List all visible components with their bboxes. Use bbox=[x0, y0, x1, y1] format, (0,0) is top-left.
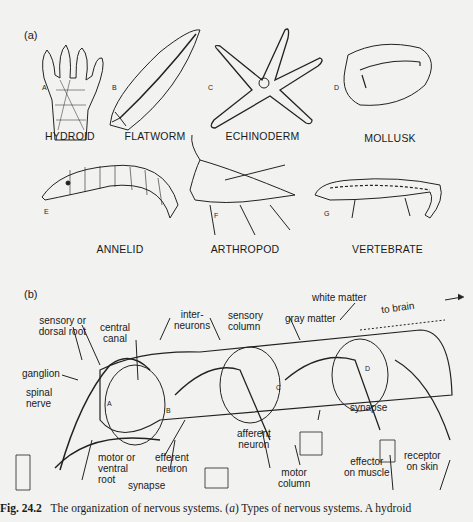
label-ganglion: ganglion bbox=[22, 368, 60, 379]
animal-letter-d: D bbox=[334, 84, 339, 91]
label-spinal-nerve: spinal nerve bbox=[26, 387, 52, 409]
animal-name-annelid: ANNELID bbox=[85, 243, 155, 255]
label-receptor-on-skin: receptor on skin bbox=[404, 450, 441, 472]
label-sensory-dorsal-root: sensory or dorsal root bbox=[36, 315, 86, 337]
segment-letter-c: C bbox=[276, 384, 281, 391]
label-synapse-bottom: synapse bbox=[128, 480, 165, 491]
label-effector-on-muscle: effector on muscle bbox=[344, 456, 390, 478]
animal-letter-e: E bbox=[44, 208, 49, 215]
hydroid-drawing bbox=[43, 45, 104, 140]
mollusk-drawing bbox=[344, 44, 431, 105]
animal-name-echinoderm: ECHINODERM bbox=[220, 130, 305, 142]
animal-name-mollusk: MOLLUSK bbox=[355, 132, 425, 144]
figure-number: Fig. 24.2 bbox=[0, 502, 42, 514]
label-white-matter: white matter bbox=[312, 292, 366, 303]
segment-letter-a: A bbox=[107, 400, 112, 407]
animal-letter-c: C bbox=[208, 84, 213, 91]
label-sensory-column: sensory column bbox=[228, 310, 263, 332]
panel-b-label: (b) bbox=[24, 288, 37, 300]
annelid-drawing bbox=[42, 165, 178, 218]
label-gray-matter: gray matter bbox=[285, 313, 336, 324]
animal-name-vertebrate: VERTEBRATE bbox=[345, 243, 430, 255]
animal-letter-f: F bbox=[214, 212, 218, 219]
label-synapse-right: synapse bbox=[350, 402, 387, 413]
animal-letter-g: G bbox=[324, 210, 329, 217]
segment-letter-b: B bbox=[166, 407, 171, 414]
animal-name-hydroid: HYDROID bbox=[40, 130, 100, 142]
panel-a-label: (a) bbox=[24, 29, 37, 41]
figure-caption: Fig. 24.2 The organization of nervous sy… bbox=[0, 502, 411, 514]
animal-letter-a: A bbox=[42, 84, 47, 91]
flatworm-drawing bbox=[110, 30, 200, 130]
label-interneurons: inter- neurons bbox=[174, 309, 210, 331]
label-afferent-neuron: afferent neuron bbox=[237, 428, 271, 450]
segment-letter-d: D bbox=[365, 365, 370, 372]
vertebrate-drawing bbox=[315, 179, 441, 218]
animal-name-flatworm: FLATWORM bbox=[120, 130, 190, 142]
label-motor-column: motor column bbox=[278, 467, 310, 489]
animal-name-arthropod: ARTHROPOD bbox=[205, 243, 285, 255]
label-efferent-neuron: efferent neuron bbox=[155, 452, 189, 474]
animal-letter-b: B bbox=[112, 84, 117, 91]
label-central-canal: central canal bbox=[100, 322, 130, 344]
arthropod-drawing bbox=[190, 135, 295, 235]
starfish-drawing bbox=[211, 29, 322, 128]
